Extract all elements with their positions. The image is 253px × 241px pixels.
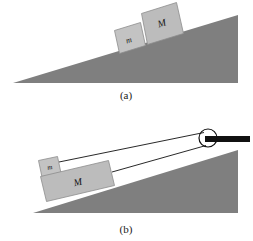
physics-figure: m M (a) m M [0,0,253,241]
panel-b-caption: (b) [120,223,133,236]
figure-canvas: m M (a) m M [0,0,253,241]
panel-b: m M (b) [33,129,250,236]
panel-a: m M (a) [13,3,238,103]
panel-a-caption: (a) [120,89,133,102]
string-upper-to-m [59,133,204,163]
